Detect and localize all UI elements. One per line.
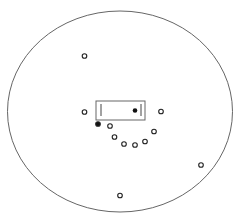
hollow-point (118, 193, 123, 198)
hollow-point (82, 110, 87, 115)
hollow-point (159, 109, 164, 114)
hollow-point (112, 135, 117, 140)
hollow-point (82, 54, 87, 59)
filled-point (96, 122, 101, 127)
hollow-point (143, 139, 148, 144)
points-group (82, 54, 203, 198)
hollow-point (108, 124, 113, 129)
center-box (96, 101, 145, 120)
hollow-point (133, 143, 138, 148)
diagram-canvas (0, 0, 237, 220)
inner-filled-dot (133, 108, 138, 113)
hollow-point (152, 129, 157, 134)
hollow-point (122, 142, 127, 147)
center-box-group (96, 101, 145, 120)
boundary-ellipse (8, 11, 233, 212)
hollow-point (199, 163, 204, 168)
